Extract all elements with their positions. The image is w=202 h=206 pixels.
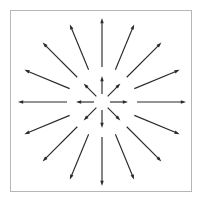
figure-canvas — [0, 0, 202, 206]
background-rect — [0, 0, 202, 206]
radial-burst-diagram — [0, 0, 202, 206]
